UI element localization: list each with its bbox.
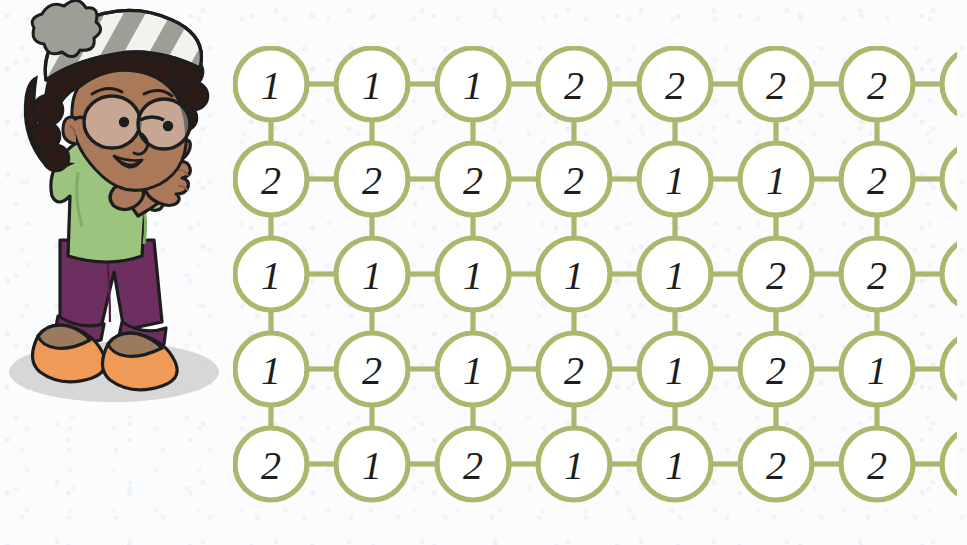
- bubble-digit: 2: [766, 253, 786, 298]
- number-bubble[interactable]: 1: [841, 333, 913, 405]
- number-bubble[interactable]: 2: [538, 143, 610, 215]
- number-bubble[interactable]: 1: [336, 428, 408, 500]
- bubble-digit: 1: [261, 348, 281, 393]
- bubble-digit: 1: [665, 443, 685, 488]
- number-bubble[interactable]: 1: [235, 238, 307, 310]
- bubble-digit: 2: [564, 348, 584, 393]
- number-bubble[interactable]: 1: [740, 143, 812, 215]
- number-bubble[interactable]: 2: [841, 428, 913, 500]
- number-bubble[interactable]: 1: [639, 238, 711, 310]
- glasses-icon: [74, 96, 190, 149]
- bubble-digit: 1: [564, 253, 584, 298]
- number-bubble[interactable]: 2: [336, 143, 408, 215]
- worksheet-page: 1112222122221121111112211212121121211222: [0, 0, 967, 545]
- bubble-digit: 1: [867, 348, 887, 393]
- number-bubble[interactable]: 2: [538, 333, 610, 405]
- bubble-digit: 1: [766, 158, 786, 203]
- bubble-digit: 1: [564, 443, 584, 488]
- bubble-outline: [942, 333, 957, 405]
- bubble-digit: 1: [261, 253, 281, 298]
- bubble-digit: 1: [362, 63, 382, 108]
- number-bubble[interactable]: 1: [538, 238, 610, 310]
- bubble-digit: 2: [463, 158, 483, 203]
- number-bubble[interactable]: 2: [841, 48, 913, 120]
- bubble-digit: 1: [665, 348, 685, 393]
- number-bubble[interactable]: 1: [336, 238, 408, 310]
- number-bubble[interactable]: 2: [336, 333, 408, 405]
- bubble-digit: 1: [362, 253, 382, 298]
- number-bubble[interactable]: 1: [437, 48, 509, 120]
- number-bubble[interactable]: 1: [639, 428, 711, 500]
- number-bubble[interactable]: 1: [437, 333, 509, 405]
- number-bubble[interactable]: 2: [437, 428, 509, 500]
- number-bubble[interactable]: 2: [740, 238, 812, 310]
- bubble-digit: 2: [463, 443, 483, 488]
- number-bubble-grid: 1112222122221121111112211212121121211222: [233, 46, 957, 506]
- bubble-digit: 2: [261, 443, 281, 488]
- number-bubble[interactable]: 1: [942, 238, 957, 310]
- number-bubble[interactable]: 2: [841, 143, 913, 215]
- bubble-digit: 1: [463, 63, 483, 108]
- bubble-digit: 2: [867, 158, 887, 203]
- number-bubble[interactable]: 2: [639, 48, 711, 120]
- bubble-digit: 2: [564, 158, 584, 203]
- bubble-digit: 1: [463, 253, 483, 298]
- bubble-outline: [942, 238, 957, 310]
- number-bubble[interactable]: 1: [336, 48, 408, 120]
- number-bubble[interactable]: 2: [841, 238, 913, 310]
- bubble-digit: 2: [867, 63, 887, 108]
- bubble-digit: 1: [665, 158, 685, 203]
- number-bubble[interactable]: 1: [437, 238, 509, 310]
- bubble-digit: 2: [665, 63, 685, 108]
- number-bubble[interactable]: 1: [235, 48, 307, 120]
- bubble-digit: 2: [362, 158, 382, 203]
- number-bubble[interactable]: 1: [639, 333, 711, 405]
- grid-nodes: 1112222122221121111112211212121121211222: [235, 48, 957, 500]
- bubble-digit: 1: [665, 253, 685, 298]
- number-bubble[interactable]: 1: [942, 143, 957, 215]
- bubble-digit: 1: [362, 443, 382, 488]
- number-bubble[interactable]: 2: [740, 428, 812, 500]
- number-bubble[interactable]: 2: [235, 428, 307, 500]
- bubble-digit: 1: [463, 348, 483, 393]
- bubble-outline: [942, 48, 957, 120]
- bubble-digit: 2: [564, 63, 584, 108]
- grid-canvas: 1112222122221121111112211212121121211222: [233, 46, 957, 506]
- bubble-outline: [942, 428, 957, 500]
- number-bubble[interactable]: 1: [538, 428, 610, 500]
- bubble-digit: 2: [766, 63, 786, 108]
- bubble-digit: 2: [867, 443, 887, 488]
- number-bubble[interactable]: 2: [538, 48, 610, 120]
- number-bubble[interactable]: 2: [942, 428, 957, 500]
- number-bubble[interactable]: 2: [235, 143, 307, 215]
- number-bubble[interactable]: 1: [235, 333, 307, 405]
- bubble-digit: 2: [867, 253, 887, 298]
- bubble-digit: 2: [766, 348, 786, 393]
- bubble-digit: 2: [362, 348, 382, 393]
- number-bubble[interactable]: 1: [639, 143, 711, 215]
- girl-pointing-character: [2, 0, 232, 430]
- bubble-digit: 1: [261, 63, 281, 108]
- bubble-digit: 2: [766, 443, 786, 488]
- number-bubble[interactable]: 1: [942, 333, 957, 405]
- number-bubble[interactable]: 2: [740, 333, 812, 405]
- number-bubble[interactable]: 2: [437, 143, 509, 215]
- number-bubble[interactable]: 1: [942, 48, 957, 120]
- bubble-digit: 2: [261, 158, 281, 203]
- bubble-outline: [942, 143, 957, 215]
- number-bubble[interactable]: 2: [740, 48, 812, 120]
